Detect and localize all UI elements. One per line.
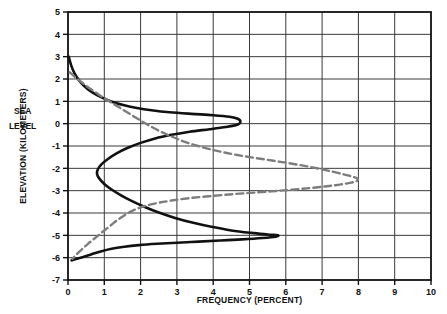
y-tick-label: 2 xyxy=(55,74,60,84)
x-tick-label: 0 xyxy=(65,287,70,297)
y-tick-label: -7 xyxy=(52,275,60,285)
x-axis-title: FREQUENCY (PERCENT) xyxy=(197,295,303,305)
chart-background xyxy=(0,0,447,314)
y-tick-label: -6 xyxy=(52,253,60,263)
y-tick-label: 5 xyxy=(55,7,60,17)
x-tick-label: 8 xyxy=(356,287,361,297)
y-tick-label: 3 xyxy=(55,52,60,62)
x-tick-label: 10 xyxy=(426,287,436,297)
x-tick-label: 2 xyxy=(138,287,143,297)
x-tick-label: 7 xyxy=(320,287,325,297)
y-tick-label: -1 xyxy=(52,141,60,151)
hypsometric-frequency-chart: 012345678910543210-1-2-3-4-5-6-7 SEALEVE… xyxy=(0,0,447,314)
x-tick-label: 3 xyxy=(174,287,179,297)
y-axis-title: ELEVATION (KILOMETERS) xyxy=(18,88,28,204)
x-tick-label: 1 xyxy=(102,287,107,297)
y-tick-label: -3 xyxy=(52,186,60,196)
y-tick-label: -4 xyxy=(52,208,60,218)
y-tick-label: 0 xyxy=(55,119,60,129)
x-tick-label: 9 xyxy=(392,287,397,297)
chart-canvas: 012345678910543210-1-2-3-4-5-6-7 SEALEVE… xyxy=(0,0,447,314)
y-tick-label: -2 xyxy=(52,164,60,174)
y-tick-label: -5 xyxy=(52,231,60,241)
y-tick-label: 1 xyxy=(55,97,60,107)
y-tick-label: 4 xyxy=(55,30,60,40)
